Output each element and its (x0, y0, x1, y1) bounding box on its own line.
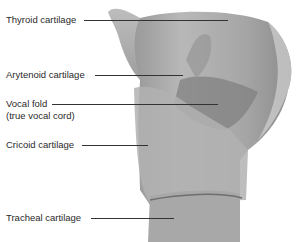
label-cricoid-cartilage: Cricoid cartilage (6, 139, 74, 150)
label-vocal-fold: Vocal fold (6, 98, 47, 109)
label-thyroid-cartilage: Thyroid cartilage (6, 14, 76, 25)
leader-line-cricoid (82, 145, 148, 146)
label-vocal-fold-sub: (true vocal cord) (6, 110, 75, 121)
leader-line-tracheal (91, 218, 174, 219)
label-tracheal-cartilage: Tracheal cartilage (6, 212, 81, 223)
label-arytenoid-cartilage: Arytenoid cartilage (6, 69, 85, 80)
larynx-diagram: Thyroid cartilage Arytenoid cartilage Vo… (0, 0, 302, 242)
leader-line-thyroid (84, 20, 228, 21)
larynx-specimen-image (0, 0, 302, 242)
leader-line-vocal-fold (52, 104, 218, 105)
leader-line-arytenoid (95, 75, 183, 76)
